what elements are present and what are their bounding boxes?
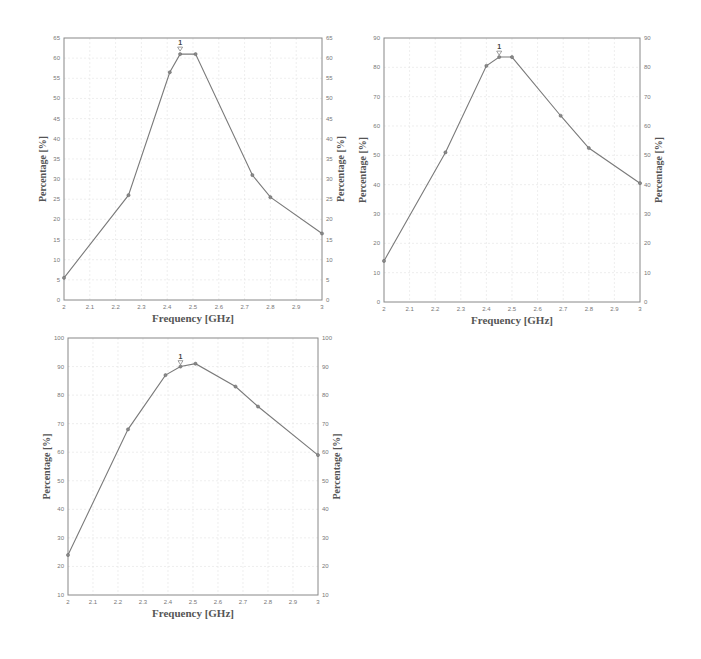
x-tick-label: 2.3	[137, 304, 146, 310]
y-tick-label-left: 100	[54, 335, 65, 341]
data-point	[62, 276, 65, 279]
x-tick-label: 3	[638, 306, 642, 312]
y-axis-label-left: Percentage [%]	[357, 137, 368, 203]
x-tick-label: 3	[316, 599, 320, 605]
x-tick-label: 2.7	[559, 306, 568, 312]
y-tick-label-left: 0	[57, 297, 61, 303]
data-point	[164, 374, 167, 377]
y-tick-label-left: 40	[373, 182, 380, 188]
data-point	[559, 114, 562, 117]
x-tick-label: 2.5	[189, 304, 198, 310]
x-tick-label: 2	[382, 306, 386, 312]
y-tick-label-right: 50	[326, 95, 333, 101]
x-tick-label: 2.3	[139, 599, 148, 605]
peak-marker-label: 1	[179, 353, 183, 360]
y-tick-label-left: 25	[53, 196, 60, 202]
y-tick-label-right: 15	[326, 237, 333, 243]
peak-marker	[497, 51, 502, 55]
y-tick-label-right: 40	[326, 136, 333, 142]
data-point	[194, 53, 197, 56]
x-tick-label: 2	[62, 304, 66, 310]
x-tick-label: 3	[320, 304, 324, 310]
data-point	[444, 151, 447, 154]
x-tick-label: 2.6	[533, 306, 542, 312]
y-tick-label-right: 80	[322, 392, 329, 398]
y-tick-label-left: 10	[53, 257, 60, 263]
x-tick-label: 2.9	[289, 599, 298, 605]
data-point	[485, 64, 488, 67]
x-tick-label: 2.8	[585, 306, 594, 312]
y-tick-label-left: 20	[373, 240, 380, 246]
y-tick-label-right: 90	[322, 364, 329, 370]
y-tick-label-right: 20	[326, 216, 333, 222]
y-tick-label-right: 45	[326, 116, 333, 122]
plot-frame	[64, 38, 322, 300]
y-tick-label-right: 10	[644, 270, 651, 276]
y-tick-label-left: 15	[53, 237, 60, 243]
y-tick-label-left: 30	[53, 176, 60, 182]
y-tick-label-right: 10	[322, 592, 329, 598]
y-tick-label-right: 65	[326, 35, 333, 41]
y-tick-label-left: 30	[373, 211, 380, 217]
data-point	[498, 55, 501, 58]
y-tick-label-left: 65	[53, 35, 60, 41]
y-tick-label-right: 80	[644, 64, 651, 70]
chart-1: 22.12.22.32.42.52.62.72.82.9300551010151…	[37, 35, 346, 324]
data-point	[168, 71, 171, 74]
y-tick-label-left: 20	[53, 216, 60, 222]
x-tick-label: 2.5	[189, 599, 198, 605]
x-tick-label: 2.6	[214, 599, 223, 605]
y-tick-label-right: 10	[326, 257, 333, 263]
y-tick-label-left: 30	[57, 535, 64, 541]
data-point	[382, 259, 385, 262]
y-tick-label-left: 5	[57, 277, 61, 283]
x-tick-label: 2.1	[86, 304, 95, 310]
y-tick-label-right: 20	[644, 240, 651, 246]
y-tick-label-right: 50	[322, 478, 329, 484]
y-tick-label-left: 60	[57, 449, 64, 455]
y-tick-label-right: 70	[644, 94, 651, 100]
y-tick-label-left: 70	[57, 421, 64, 427]
x-axis-label: Frequency [GHz]	[471, 314, 553, 326]
x-tick-label: 2.4	[163, 304, 172, 310]
y-tick-label-right: 0	[326, 297, 330, 303]
figure-canvas: 22.12.22.32.42.52.62.72.82.9300551010151…	[0, 0, 701, 659]
y-tick-label-left: 40	[53, 136, 60, 142]
y-tick-label-left: 60	[53, 55, 60, 61]
x-axis-label: Frequency [GHz]	[152, 607, 234, 619]
y-tick-label-left: 80	[57, 392, 64, 398]
x-tick-label: 2.7	[239, 599, 248, 605]
y-tick-label-left: 0	[377, 299, 381, 305]
y-tick-label-right: 60	[322, 449, 329, 455]
y-tick-label-left: 10	[57, 592, 64, 598]
x-tick-label: 2.6	[215, 304, 224, 310]
data-point	[127, 194, 130, 197]
y-tick-label-left: 55	[53, 75, 60, 81]
data-point	[194, 362, 197, 365]
data-point	[179, 365, 182, 368]
y-axis-label-right: Percentage [%]	[335, 136, 346, 202]
y-tick-label-right: 70	[322, 421, 329, 427]
peak-marker-label: 1	[497, 43, 501, 50]
data-point	[638, 182, 641, 185]
y-axis-label-left: Percentage [%]	[37, 136, 48, 202]
y-tick-label-left: 80	[373, 64, 380, 70]
x-tick-label: 2.3	[457, 306, 466, 312]
y-axis-label-right: Percentage [%]	[331, 433, 342, 499]
y-tick-label-right: 5	[326, 277, 330, 283]
x-tick-label: 2.4	[482, 306, 491, 312]
x-tick-label: 2.2	[431, 306, 440, 312]
chart-3: 22.12.22.32.42.52.62.72.82.9310102020303…	[41, 335, 342, 619]
x-tick-label: 2.1	[405, 306, 414, 312]
x-tick-label: 2.2	[114, 599, 123, 605]
y-tick-label-left: 10	[373, 270, 380, 276]
x-tick-label: 2.2	[111, 304, 120, 310]
x-tick-label: 2.7	[240, 304, 249, 310]
x-tick-label: 2	[66, 599, 70, 605]
data-point	[66, 553, 69, 556]
y-tick-label-left: 50	[57, 478, 64, 484]
data-point	[234, 385, 237, 388]
y-tick-label-left: 20	[57, 563, 64, 569]
data-point	[510, 55, 513, 58]
y-tick-label-right: 60	[644, 123, 651, 129]
